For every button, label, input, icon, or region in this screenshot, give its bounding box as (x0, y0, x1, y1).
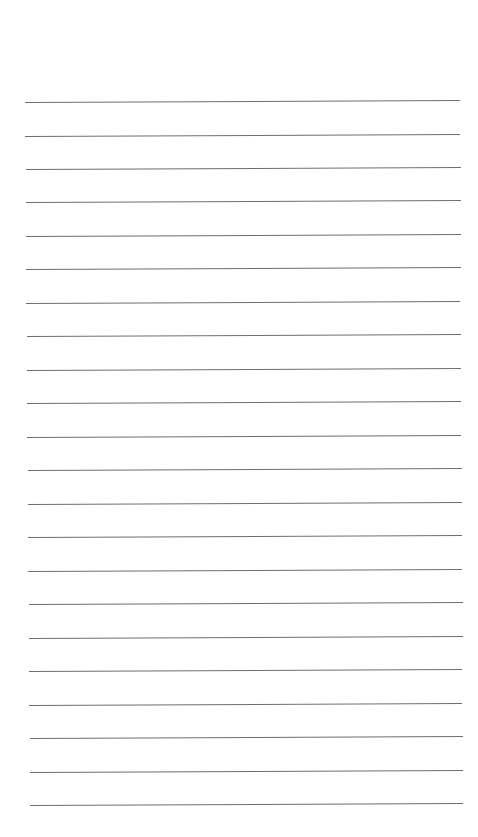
ruled-line (28, 569, 462, 572)
ruled-line (28, 468, 462, 471)
ruled-line (29, 602, 463, 605)
ruled-line (26, 301, 460, 304)
ruled-line (29, 636, 463, 639)
ruled-line (29, 736, 462, 739)
ruled-line (26, 267, 461, 270)
ruled-line (26, 234, 461, 237)
ruled-line (30, 770, 463, 773)
ruled-line (29, 669, 462, 672)
ruled-line (25, 100, 460, 103)
ruled-line (27, 368, 461, 371)
ruled-line (27, 401, 461, 404)
ruled-line (26, 200, 461, 203)
lined-paper-page (0, 0, 478, 837)
ruled-line (27, 435, 461, 438)
ruled-line (30, 803, 463, 806)
ruled-line (27, 334, 461, 337)
ruled-line (28, 502, 462, 505)
ruled-line (28, 535, 462, 538)
ruled-line (29, 703, 462, 706)
ruled-line (25, 134, 460, 137)
ruled-line (25, 167, 460, 170)
